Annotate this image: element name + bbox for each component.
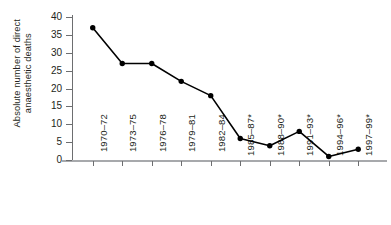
data-point xyxy=(90,25,95,30)
chart-figure: Absolute number of direct anaesthetic de… xyxy=(0,0,391,225)
data-point xyxy=(179,79,184,84)
series-line xyxy=(93,28,359,157)
data-series-layer xyxy=(0,0,391,225)
data-point xyxy=(267,143,272,148)
data-point xyxy=(356,147,361,152)
data-point xyxy=(149,61,154,66)
series-markers xyxy=(90,25,361,159)
data-point xyxy=(297,129,302,134)
data-point xyxy=(326,154,331,159)
data-point xyxy=(120,61,125,66)
data-point xyxy=(238,136,243,141)
data-point xyxy=(208,93,213,98)
